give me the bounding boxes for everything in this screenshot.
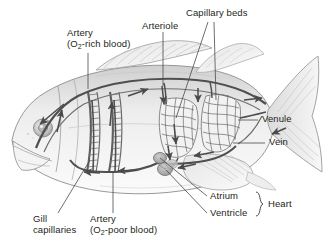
- fish-circulation-figure: Artery (O2-rich blood) Arteriole Capilla…: [0, 0, 330, 250]
- label-heart: Heart: [268, 198, 292, 209]
- label-artery-oxygen-poor: Artery (O2-poor blood): [90, 213, 157, 236]
- label-atrium: Atrium: [210, 190, 238, 201]
- label-artery-poor-line2: (O2-poor blood): [90, 224, 157, 236]
- label-arteriole: Arteriole: [142, 20, 178, 31]
- label-gill-capillaries: Gill capillaries: [33, 213, 76, 235]
- heart-brace: [256, 192, 263, 216]
- label-gill-line2: capillaries: [33, 224, 76, 235]
- anal-fin: [246, 172, 276, 190]
- label-capillary-beds: Capillary beds: [186, 7, 248, 18]
- label-artery-oxygen-rich: Artery (O2-rich blood): [67, 27, 130, 50]
- label-ventricle: Ventricle: [210, 207, 247, 218]
- label-gill-line1: Gill: [33, 213, 76, 224]
- label-artery-poor-line1: Artery: [90, 213, 157, 224]
- label-artery-rich-line2: (O2-rich blood): [67, 38, 130, 50]
- label-venule: Venule: [262, 113, 292, 124]
- label-vein: Vein: [269, 136, 288, 147]
- label-artery-rich-line1: Artery: [67, 27, 130, 38]
